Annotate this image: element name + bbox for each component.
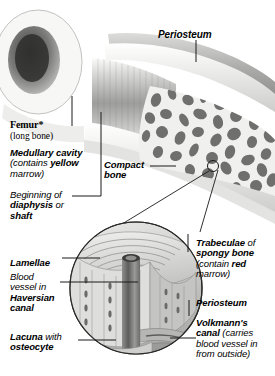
label-volkmanns-paren1: (carries [220,327,253,338]
label-medullary-paren-post: marrow) [10,169,82,179]
label-diaphysis-mid: or [53,199,64,210]
label-trabeculae-paren-pre: (contain [196,258,232,269]
label-compact-bone-line2: bone [104,170,144,180]
label-volkmanns-canal-word: canal [196,327,220,338]
label-femur: Femur* (long bone) [10,120,53,141]
label-volkmanns-paren3: from outside) [196,349,257,359]
label-trabeculae-paren-post: marrow) [196,269,255,279]
label-periosteum-inset: Periosteum [196,292,247,309]
label-periosteum-top-text: Periosteum [158,29,211,40]
label-blood-vessel: Blood vessel in Haversian canal [10,272,55,313]
label-periosteum-top: Periosteum [158,24,211,41]
label-volkmanns-canal: Volkmann's canal (carries blood vessel i… [196,318,257,359]
label-trabeculae: Trabeculae of spongy bone (contain red m… [196,238,255,279]
label-lacuna: Lacuna with osteocyte [10,332,62,353]
label-diaphysis-term: diaphysis [10,199,53,210]
label-femur-term: Femur* [10,120,53,131]
label-femur-paren: (long bone) [10,131,53,141]
label-osteocyte: osteocyte [10,342,62,352]
label-periosteum-inset-text: Periosteum [196,297,247,308]
label-diaphysis-shaft: shaft [10,211,64,221]
label-red: red [232,258,246,269]
bone-diagram-figure: Periosteum Femur* (long bone) Medullary … [0,0,275,376]
label-medullary-paren-pre: (contains [10,157,50,168]
label-lamellae-text: Lamellae [10,257,50,268]
label-blood-vessel-line2: vessel in [10,282,55,292]
label-compact-bone: Compact bone [104,160,144,181]
label-diaphysis: Beginning of diaphysis or shaft [10,190,64,221]
label-medullary-yellow: yellow [50,157,78,168]
label-lamellae: Lamellae [10,252,50,269]
label-haversian-canal: canal [10,303,55,313]
label-medullary-cavity: Medullary cavity (contains yellow marrow… [10,148,82,179]
osteon-inset-illustration [65,222,203,362]
